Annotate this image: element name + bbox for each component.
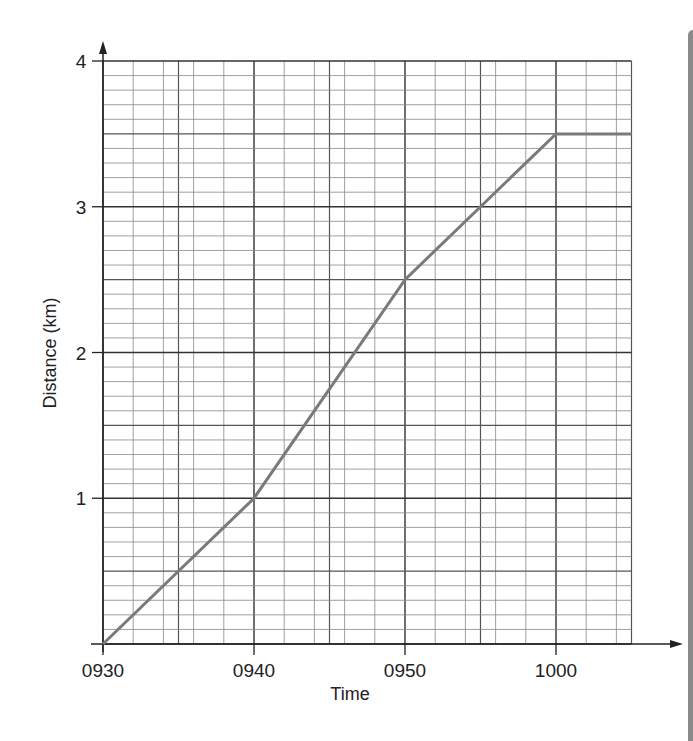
y-tick-label: 3 xyxy=(76,197,87,218)
distance-time-graph: 0930094009501000 1234 Time Distance (km) xyxy=(0,0,693,741)
x-axis-title: Time xyxy=(330,684,369,704)
grid xyxy=(103,61,632,644)
distance-line xyxy=(103,134,632,644)
x-tick-label: 1000 xyxy=(535,660,577,681)
x-tick-label: 0940 xyxy=(233,660,275,681)
x-tick-label: 0950 xyxy=(384,660,426,681)
y-tick-label: 1 xyxy=(76,488,87,509)
y-tick-label: 2 xyxy=(76,343,87,364)
y-tick-labels: 1234 xyxy=(76,51,87,509)
page-edge-bar xyxy=(688,30,693,741)
x-tick-labels: 0930094009501000 xyxy=(82,660,577,681)
y-tick-label: 4 xyxy=(76,51,87,72)
x-tick-label: 0930 xyxy=(82,660,124,681)
y-axis-title: Distance (km) xyxy=(40,297,60,408)
